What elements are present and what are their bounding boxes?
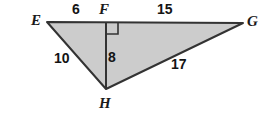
vertex-label-G: G [247, 14, 258, 29]
measure-label-EF: 6 [72, 2, 80, 16]
vertex-label-F: F [99, 2, 109, 17]
geometry-figure: E F G H 6 15 10 8 17 [0, 0, 266, 119]
vertex-label-E: E [31, 13, 41, 28]
vertex-label-H: H [99, 96, 111, 111]
measure-label-FG: 15 [157, 2, 173, 16]
triangle-EGH-shape [47, 22, 243, 89]
measure-label-HG: 17 [171, 57, 187, 71]
measure-label-EH: 10 [54, 51, 70, 65]
measure-label-FH: 8 [108, 50, 116, 64]
